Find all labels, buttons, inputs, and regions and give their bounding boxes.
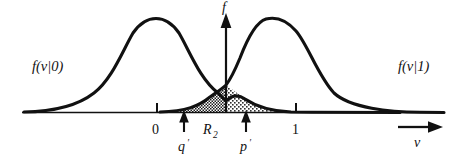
label-right-density: f(v|1) [398,58,430,75]
shaded-region-right [226,85,291,112]
density-plot-svg: f(v|0) f(v|1) f v 0 1 R 2 q ′ p ′ [0,0,463,156]
label-horizontal-axis: v [414,135,421,150]
axis-arrow-right-icon [398,121,443,133]
tick-label-one: 1 [292,122,299,137]
threshold-label-q-letter: q [178,139,185,154]
threshold-label-p-letter: p [239,139,247,154]
threshold-label-p-prime-mark: ′ [249,138,252,148]
tick-label-zero: 0 [152,122,159,137]
label-left-density: f(v|0) [32,58,64,75]
figure-container: f(v|0) f(v|1) f v 0 1 R 2 q ′ p ′ [0,0,463,156]
threshold-label-q-prime: q ′ [178,138,190,154]
region-label-r2: R 2 [202,122,218,140]
shaded-region-left [170,85,226,112]
threshold-label-p-prime: p ′ [239,138,252,154]
region-label-letter: R [202,122,212,137]
axis-arrow-up-icon [221,13,232,28]
label-vertical-axis: f [222,0,228,15]
threshold-label-q-prime-mark: ′ [187,138,190,148]
region-label-subscript: 2 [213,130,218,140]
